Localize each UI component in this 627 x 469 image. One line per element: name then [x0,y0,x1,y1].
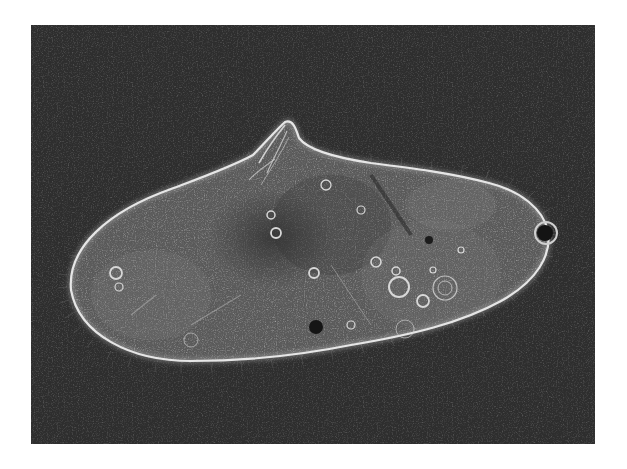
dark-granule [309,320,323,334]
ciliate-micrograph [31,25,595,444]
dark-granule-2 [425,236,433,244]
micrograph-frame [31,25,595,444]
